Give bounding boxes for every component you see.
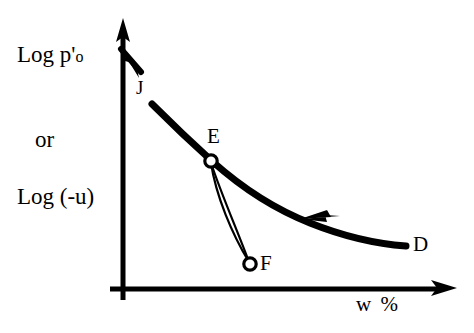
curve-direction-arrow-toward-e <box>300 205 342 219</box>
figure-canvas: Log p'o or Log (-u) w % J E F D <box>0 0 474 333</box>
y-axis-label-log-p0: Log p'o <box>17 43 83 66</box>
point-label-e: E <box>207 126 220 147</box>
main-curve <box>120 47 406 246</box>
x-axis <box>110 280 457 296</box>
point-label-d: D <box>413 234 428 255</box>
y-axis-label-log-minus-u: Log (-u) <box>17 185 94 208</box>
y-axis-label-or: or <box>35 128 54 151</box>
point-label-j: J <box>136 78 143 97</box>
point-label-f: F <box>260 253 272 274</box>
x-axis-label: w % <box>356 294 400 315</box>
y-axis-label-log-p0-subscript: o <box>75 48 83 65</box>
y-axis-label-log-p0-main: Log p' <box>17 42 75 67</box>
marker-point-f <box>244 258 256 270</box>
marker-point-e <box>205 155 217 167</box>
